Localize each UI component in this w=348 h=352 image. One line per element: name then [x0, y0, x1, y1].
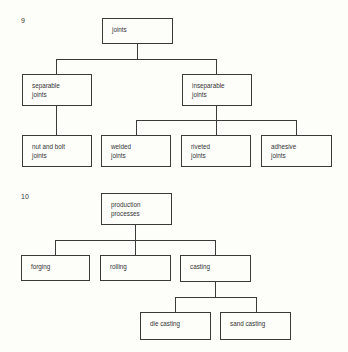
node-label: joints	[32, 151, 91, 160]
node-welded-joints: welded joints	[101, 135, 171, 167]
node-production-processes: production processes	[101, 193, 172, 225]
connector	[256, 297, 257, 312]
diagram-canvas: 9 joints separable joints inseparable jo…	[0, 0, 348, 352]
connector	[175, 297, 176, 312]
connector	[55, 240, 216, 241]
connector	[55, 240, 56, 255]
node-label: production	[111, 200, 171, 209]
node-sand-casting: sand casting	[220, 312, 291, 340]
connector	[56, 59, 57, 74]
figure-number-10: 10	[21, 193, 29, 200]
node-label: joints	[32, 90, 91, 99]
node-label: forging	[31, 262, 89, 271]
connector	[215, 240, 216, 255]
node-adhesive-joints: adhesive joints	[261, 135, 332, 167]
node-label: joints	[191, 151, 250, 160]
connector	[175, 297, 257, 298]
node-label: joints	[112, 25, 172, 34]
connector	[215, 282, 216, 297]
node-label: processes	[111, 209, 171, 218]
node-label: inseparable	[192, 81, 251, 90]
node-label: nut and bolt	[32, 142, 91, 151]
connector	[56, 59, 217, 60]
node-die-casting: die casting	[140, 312, 211, 340]
connector	[296, 120, 297, 135]
connector	[136, 120, 137, 135]
node-joints: joints	[102, 18, 173, 44]
connector	[136, 120, 297, 121]
node-label: joints	[271, 151, 331, 160]
node-separable-joints: separable joints	[22, 74, 92, 106]
node-label: casting	[190, 262, 250, 271]
node-label: sand casting	[230, 319, 290, 328]
node-label: rolling	[110, 262, 170, 271]
node-label: welded	[111, 142, 170, 151]
node-inseparable-joints: inseparable joints	[182, 74, 252, 106]
node-label: die casting	[150, 319, 210, 328]
figure-number-9: 9	[21, 17, 25, 24]
node-label: separable	[32, 81, 91, 90]
node-label: joints	[111, 151, 170, 160]
node-casting: casting	[180, 255, 251, 282]
node-label: riveted	[191, 142, 250, 151]
node-forging: forging	[21, 255, 90, 281]
node-rolling: rolling	[100, 255, 171, 281]
node-label: adhesive	[271, 142, 331, 151]
connector	[56, 106, 57, 135]
node-label: joints	[192, 90, 251, 99]
node-riveted-joints: riveted joints	[181, 135, 251, 167]
node-nut-and-bolt-joints: nut and bolt joints	[22, 135, 92, 167]
connector	[216, 59, 217, 74]
connector	[137, 44, 138, 59]
